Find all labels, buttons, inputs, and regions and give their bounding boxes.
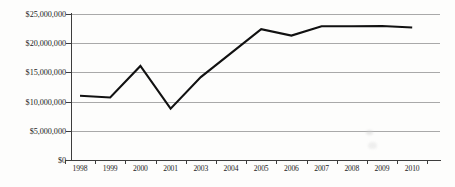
- y-axis-tick-mark: [66, 72, 71, 73]
- x-axis-tick-mark: [276, 160, 277, 164]
- line-chart: $25,000,000$20,000,000$15,000,000$10,000…: [0, 0, 455, 187]
- x-axis-tick-mark: [367, 160, 368, 164]
- x-axis-tick-mark: [216, 160, 217, 164]
- x-axis-tick-mark: [186, 160, 187, 164]
- y-axis-tick-mark: [66, 43, 71, 44]
- x-axis-tick-mark: [337, 160, 338, 164]
- y-axis-tick-mark: [66, 160, 71, 161]
- x-axis-tick-mark: [307, 160, 308, 164]
- x-axis: 1998199920002001200320042005200620072008…: [0, 0, 455, 187]
- x-axis-tick-mark: [125, 160, 126, 164]
- y-axis-tick-mark: [66, 14, 71, 15]
- x-axis-tick-mark: [156, 160, 157, 164]
- x-axis-tick-mark: [95, 160, 96, 164]
- y-axis-tick-mark: [66, 131, 71, 132]
- scan-artifact: [368, 142, 377, 149]
- x-axis-tick-mark: [427, 160, 428, 164]
- x-axis-tick-label: 2010: [392, 164, 432, 173]
- scan-artifact: [366, 130, 373, 135]
- y-axis-tick-mark: [66, 102, 71, 103]
- x-axis-tick-mark: [397, 160, 398, 164]
- x-axis-tick-mark: [246, 160, 247, 164]
